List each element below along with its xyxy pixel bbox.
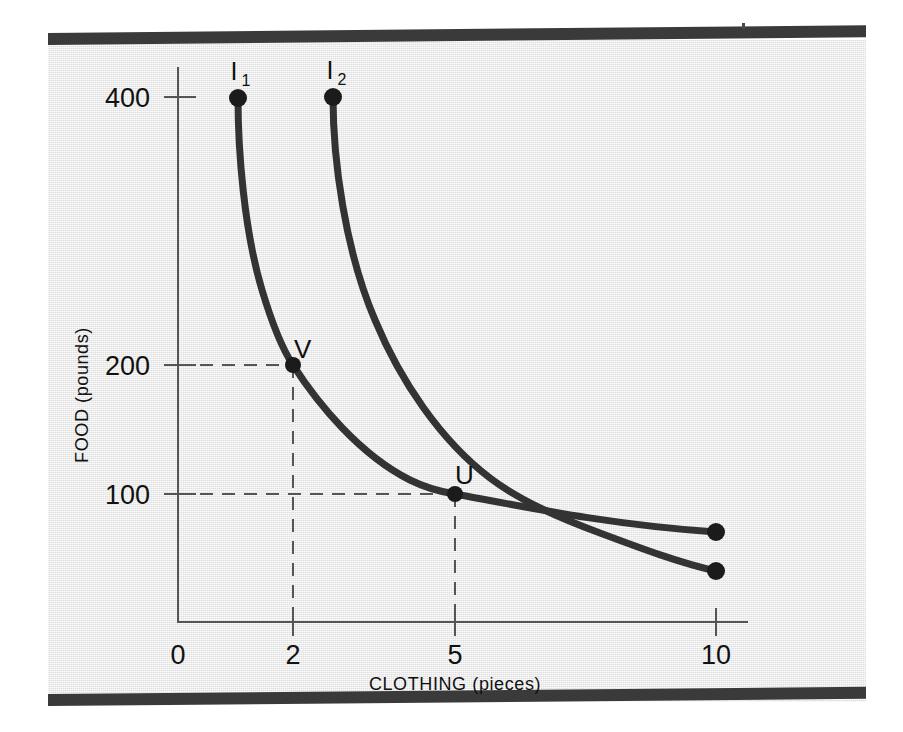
curve-i2-end-dot	[707, 523, 725, 541]
x-tick-label-0: 0	[170, 640, 185, 670]
curve-i1-end-dot	[707, 562, 725, 580]
x-tick-label-5: 5	[447, 640, 462, 670]
curve-i2-start-dot	[324, 88, 342, 106]
indifference-curve-figure: 400 200 100 0 2 5 10 FOOD (pounds) CLOTH…	[0, 0, 903, 732]
chart-plot-area: 400 200 100 0 2 5 10 FOOD (pounds) CLOTH…	[0, 0, 903, 732]
x-axis-title: CLOTHING (pieces)	[369, 674, 541, 694]
curve-i2-label: I	[327, 56, 334, 84]
y-tick-label-200: 200	[105, 351, 150, 381]
curve-i1-start-dot	[229, 89, 247, 107]
curve-i1-label-subscript: 1	[242, 72, 251, 89]
curve-i1-label: I	[231, 57, 238, 85]
point-v-label: V	[294, 334, 312, 364]
point-u-label: U	[455, 460, 474, 490]
y-tick-label-400: 400	[105, 83, 150, 113]
curve-i2	[333, 97, 716, 571]
x-tick-label-2: 2	[285, 640, 300, 670]
y-tick-label-100: 100	[105, 480, 150, 510]
curve-i2-label-subscript: 2	[338, 71, 347, 88]
x-tick-label-10: 10	[701, 640, 731, 670]
y-axis-title: FOOD (pounds)	[72, 327, 92, 463]
